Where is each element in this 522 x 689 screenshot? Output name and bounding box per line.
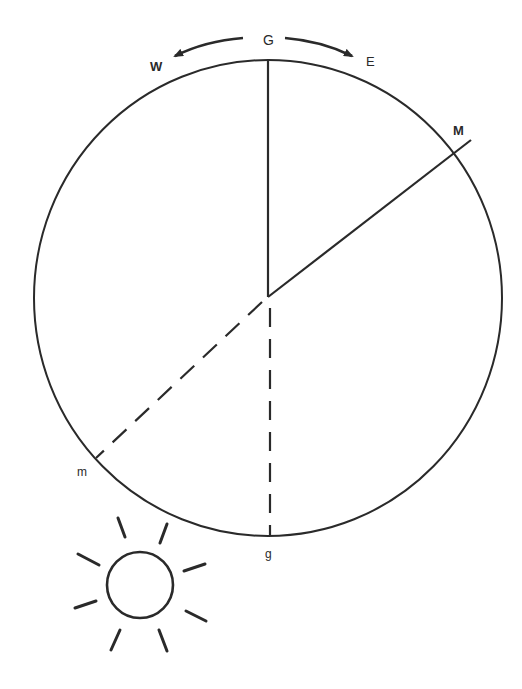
arrow-east-icon	[285, 38, 352, 56]
arrow-west-icon	[175, 38, 243, 56]
label-M: M	[453, 123, 464, 138]
label-g: g	[265, 547, 272, 561]
orbit-diagram: G W E M m g	[0, 0, 522, 689]
label-E: E	[366, 54, 375, 69]
label-m: m	[77, 465, 87, 479]
label-G: G	[263, 32, 274, 48]
sun-icon	[75, 518, 206, 651]
line-center-to-M	[268, 140, 471, 297]
label-W: W	[150, 59, 163, 74]
dashed-line-center-to-m	[96, 302, 262, 458]
